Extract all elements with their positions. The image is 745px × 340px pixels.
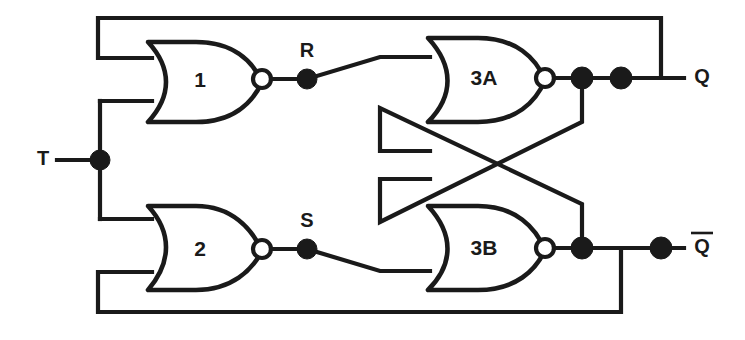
junction-dot-qbar-a [571,237,593,259]
node-label-s: S [300,209,313,231]
node-label-r: R [300,39,315,61]
logic-circuit-diagram: 1 2 3A 3B [0,0,745,340]
port-label-t: T [37,147,49,169]
gate-1-label: 1 [194,68,206,91]
gate-3a-label: 3A [471,66,498,89]
junction-dot-qbar-b [650,237,672,259]
junction-dot-q-a [571,67,593,89]
junction-dot-r [297,69,317,89]
junction-dot-t [90,150,110,170]
gate-2-output-bubble [253,240,271,258]
gate-3b-label: 3B [471,236,498,259]
wire-s-to-gate3b-lower-input [307,249,430,271]
gate-1-output-bubble [253,70,271,88]
port-label-qbar: Q [694,235,710,257]
circuit-canvas: 1 2 3A 3B [0,0,745,340]
junction-dot-s [297,239,317,259]
gate-3b-output-bubble [536,239,554,257]
gate-3a-output-bubble [536,69,554,87]
wire-r-to-gate3a-upper-input [307,57,430,79]
gate-2-label: 2 [194,237,206,260]
port-label-q: Q [694,65,710,87]
junction-dot-q-b [610,67,632,89]
